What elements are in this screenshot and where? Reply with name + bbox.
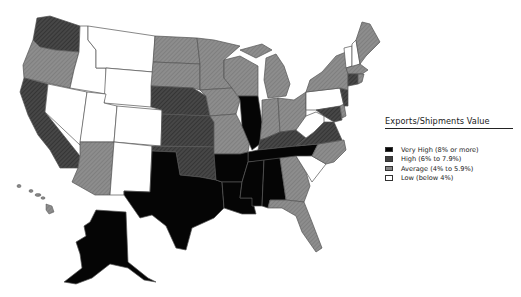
state-rhode-island[interactable]: [358, 74, 364, 84]
state-arizona[interactable]: [72, 142, 114, 195]
state-alaska[interactable]: [64, 210, 156, 284]
legend-item-high: High (6% to 7.9%): [385, 155, 521, 164]
state-hawaii[interactable]: [17, 184, 54, 214]
state-new-york[interactable]: [306, 52, 348, 92]
legend-item-low: Low (below 4%): [385, 174, 521, 183]
state-colorado[interactable]: [114, 106, 162, 146]
swatch-low: [385, 175, 393, 181]
state-new-mexico[interactable]: [110, 142, 152, 195]
state-arkansas[interactable]: [214, 152, 248, 182]
state-connecticut[interactable]: [348, 74, 358, 86]
swatch-very-high: [385, 147, 393, 153]
legend-title: Exports/Shipments Value: [385, 116, 513, 129]
legend-label: Low (below 4%): [401, 174, 453, 182]
legend-item-very-high: Very High (8% or more): [385, 145, 521, 154]
map-legend: Exports/Shipments Value Very High (8% or…: [385, 116, 521, 183]
state-florida[interactable]: [268, 200, 322, 252]
legend-item-average: Average (4% to 5.9%): [385, 164, 521, 173]
swatch-high: [385, 156, 393, 162]
legend-label: Very High (8% or more): [401, 146, 479, 154]
legend-label: Average (4% to 5.9%): [401, 165, 473, 173]
state-wyoming[interactable]: [104, 68, 153, 107]
state-kansas[interactable]: [161, 114, 214, 147]
state-montana[interactable]: [88, 26, 155, 72]
state-south-dakota[interactable]: [151, 62, 200, 90]
legend-label: High (6% to 7.9%): [401, 155, 461, 163]
state-maine[interactable]: [356, 22, 380, 64]
state-north-dakota[interactable]: [153, 36, 200, 64]
swatch-average: [385, 166, 393, 172]
